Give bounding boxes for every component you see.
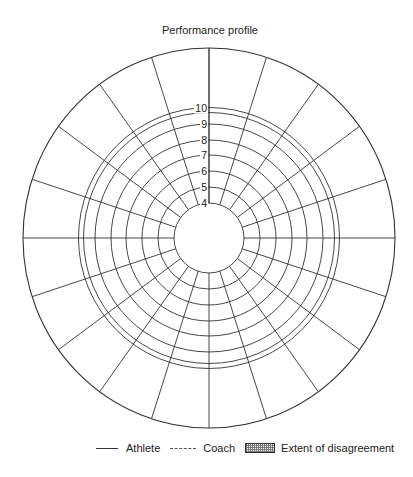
spoke [100, 266, 189, 391]
spoke [237, 259, 359, 350]
spoke [32, 249, 176, 297]
legend-label: Athlete [126, 442, 160, 454]
spoke [100, 84, 189, 209]
dashed-line-icon [170, 448, 196, 449]
spoke [152, 271, 199, 418]
ring-label-8: 8 [201, 134, 207, 146]
spoke [220, 57, 267, 204]
spoke [242, 179, 386, 227]
legend-label: Extent of disagreement [281, 442, 394, 454]
spoke [59, 126, 181, 217]
ring-label-6: 6 [201, 165, 207, 177]
legend-item-coach: Coach [170, 442, 235, 454]
spoke [237, 126, 359, 217]
legend-label: Coach [203, 442, 235, 454]
ring-label-4: 4 [201, 197, 207, 209]
legend-item-athlete: Athlete [96, 442, 160, 454]
ring-label-7: 7 [201, 149, 207, 161]
scale-labels: 45678910 [194, 48, 209, 209]
spoke [230, 266, 319, 391]
scale-ring [174, 203, 244, 273]
ring-label-9: 9 [201, 118, 207, 130]
ring-label-10: 10 [195, 102, 207, 114]
performance-profile-wheel: 45678910 [0, 0, 413, 477]
spoke [242, 249, 386, 297]
solid-line-icon [96, 448, 118, 449]
legend: Athlete Coach Extent of disagreement [96, 440, 404, 456]
hatched-swatch-icon [245, 443, 275, 453]
spoke [230, 84, 319, 209]
legend-item-disagreement: Extent of disagreement [245, 442, 394, 454]
spoke [152, 57, 199, 204]
ring-label-5: 5 [201, 181, 207, 193]
spoke [59, 259, 181, 350]
spoke [220, 271, 267, 418]
spoke [32, 179, 176, 227]
